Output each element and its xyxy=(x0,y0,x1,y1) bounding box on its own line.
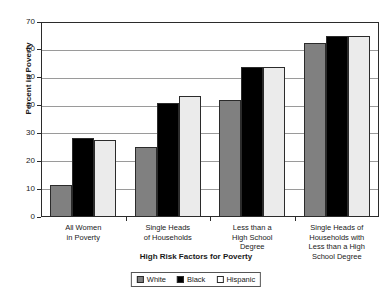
legend-label: White xyxy=(147,275,166,284)
y-tick-mark xyxy=(37,49,41,50)
y-tick-label: 40 xyxy=(26,100,35,109)
bar-hispanic[interactable] xyxy=(263,67,285,217)
category-label-line: Single Heads of xyxy=(297,223,378,233)
category-label-line: Less than a xyxy=(212,223,293,233)
x-tick-mark xyxy=(126,217,127,221)
category-label-line: All Women xyxy=(43,223,124,233)
legend-swatch-icon xyxy=(216,276,223,283)
bar-black[interactable] xyxy=(241,67,263,217)
x-axis-title: High Risk Factors for Poverty xyxy=(0,252,392,261)
bar-hispanic[interactable] xyxy=(179,96,201,217)
y-tick-mark xyxy=(37,161,41,162)
bar-white[interactable] xyxy=(50,185,72,217)
x-axis-ticks xyxy=(41,217,379,221)
y-tick-mark xyxy=(37,22,41,23)
legend-swatch-icon xyxy=(177,276,184,283)
y-tick-label: 0 xyxy=(31,212,35,221)
poverty-bar-chart: Percent in Poverty 010203040506070 All W… xyxy=(0,0,392,295)
bar-hispanic[interactable] xyxy=(348,36,370,217)
legend-item-white[interactable]: White xyxy=(137,275,166,284)
bar-group xyxy=(295,22,380,217)
y-tick-label: 10 xyxy=(26,184,35,193)
x-tick-mark xyxy=(210,217,211,221)
y-tick-mark xyxy=(37,189,41,190)
bar-white[interactable] xyxy=(135,147,157,217)
legend-item-black[interactable]: Black xyxy=(177,275,205,284)
chart-legend: WhiteBlackHispanic xyxy=(131,272,261,287)
y-tick-label: 30 xyxy=(26,128,35,137)
bar-black[interactable] xyxy=(326,36,348,217)
y-tick-mark xyxy=(37,77,41,78)
legend-item-hispanic[interactable]: Hispanic xyxy=(216,275,255,284)
category-label-line: Degree xyxy=(212,242,293,252)
y-tick-label: 70 xyxy=(26,17,35,26)
bar-white[interactable] xyxy=(219,100,241,217)
y-tick-mark xyxy=(37,105,41,106)
bar-hispanic[interactable] xyxy=(94,140,116,217)
bar-black[interactable] xyxy=(72,138,94,217)
y-tick-mark xyxy=(37,133,41,134)
bar-black[interactable] xyxy=(157,103,179,217)
legend-swatch-icon xyxy=(137,276,144,283)
bar-white[interactable] xyxy=(304,43,326,217)
category-label-line: in Poverty xyxy=(43,233,124,243)
category-label-line: Single Heads xyxy=(128,223,209,233)
category-label-line: High School xyxy=(212,233,293,243)
category-label-line: Households with xyxy=(297,233,378,243)
legend-label: Hispanic xyxy=(226,275,255,284)
category-label-line: Less than a High xyxy=(297,242,378,252)
legend-label: Black xyxy=(187,275,205,284)
y-tick-label: 50 xyxy=(26,72,35,81)
y-tick-label: 60 xyxy=(26,44,35,53)
category-label-line: of Households xyxy=(128,233,209,243)
x-tick-mark xyxy=(295,217,296,221)
y-tick-label: 20 xyxy=(26,156,35,165)
